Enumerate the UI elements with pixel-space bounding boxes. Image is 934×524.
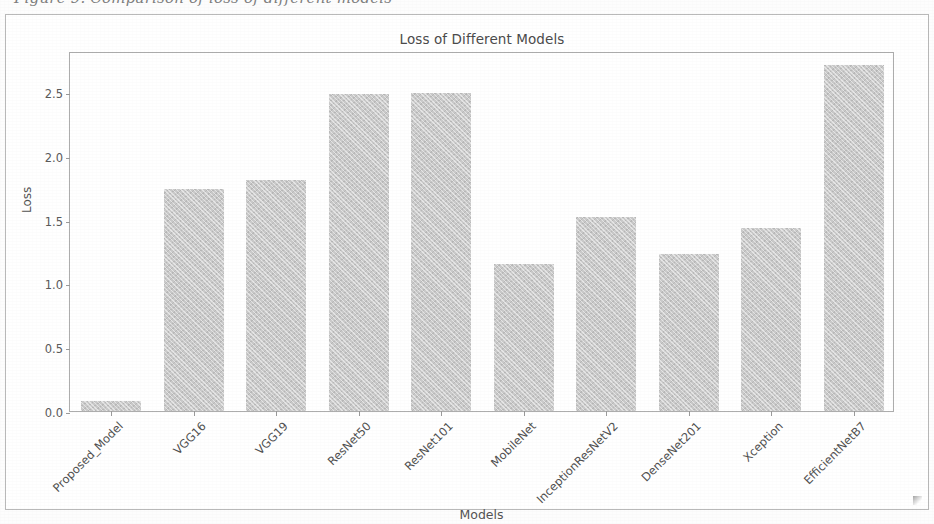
x-tick-mark (111, 411, 112, 416)
y-tick-mark (66, 94, 70, 95)
y-tick-mark (66, 222, 70, 223)
y-tick-label: 1.0 (45, 278, 63, 292)
y-tick-label: 0.5 (45, 342, 63, 356)
y-tick-mark (66, 285, 70, 286)
scan-artifact-mark (913, 496, 922, 505)
figure-caption-strip: Figure 9. Comparison of loss of differen… (0, 0, 934, 13)
x-tick-mark (854, 411, 855, 416)
scanned-page: Figure 9. Comparison of loss of differen… (0, 0, 934, 524)
bar (824, 65, 884, 411)
y-tick-label: 2.0 (45, 151, 63, 165)
x-tick-label: VGG16 (170, 419, 208, 457)
y-tick-mark (66, 413, 70, 414)
x-tick-label: Proposed_Model (50, 419, 126, 495)
x-axis-label: Models (69, 507, 894, 522)
bar (494, 264, 554, 411)
x-tick-mark (606, 411, 607, 416)
bar (741, 228, 801, 411)
x-tick-mark (771, 411, 772, 416)
x-tick-mark (524, 411, 525, 416)
y-tick-mark (66, 158, 70, 159)
x-tick-label: MobileNet (488, 419, 539, 470)
bar (164, 189, 224, 411)
y-tick-label: 2.5 (45, 87, 63, 101)
figure-frame: Loss of Different Models Loss 0.00.51.01… (5, 14, 929, 510)
x-tick-label: ResNet50 (325, 419, 374, 468)
x-tick-mark (194, 411, 195, 416)
x-tick-label: InceptionResNetV2 (534, 419, 621, 506)
x-tick-mark (276, 411, 277, 416)
x-tick-label: DenseNet201 (638, 419, 703, 484)
x-tick-label: EfficientNetB7 (801, 419, 869, 487)
bar (329, 94, 389, 411)
x-tick-label: ResNet101 (402, 419, 456, 473)
figure-caption-text: Figure 9. Comparison of loss of differen… (14, 0, 392, 7)
y-tick-label: 1.5 (45, 215, 63, 229)
chart-title: Loss of Different Models (69, 31, 895, 47)
x-tick-mark (359, 411, 360, 416)
plot-area: 0.00.51.01.52.02.5 (69, 52, 894, 412)
y-tick-label: 0.0 (45, 406, 63, 420)
bar (659, 254, 719, 411)
x-tick-label: Xception (740, 419, 786, 465)
y-tick-mark (66, 349, 70, 350)
y-axis-label: Loss (20, 187, 34, 213)
x-tick-mark (441, 411, 442, 416)
x-tick-label: VGG19 (253, 419, 291, 457)
bar (246, 180, 306, 411)
bar (576, 217, 636, 411)
bars-container (70, 53, 893, 411)
bar (411, 93, 471, 411)
x-tick-mark (689, 411, 690, 416)
bar (81, 401, 141, 411)
